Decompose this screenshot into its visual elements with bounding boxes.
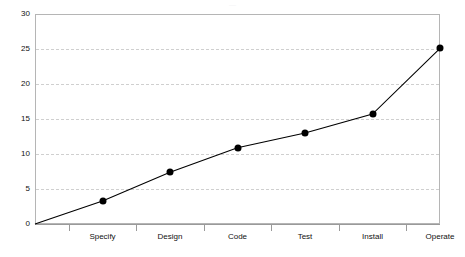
data-point-code — [234, 144, 241, 151]
data-point-operate — [437, 45, 444, 52]
series-polyline — [35, 48, 440, 224]
data-point-specify — [99, 197, 106, 204]
data-point-install — [369, 111, 376, 118]
data-point-design — [167, 169, 174, 176]
line-chart: — 051015202530 SpecifyDesignCodeTestInst… — [0, 0, 465, 257]
data-point-test — [302, 130, 309, 137]
series-line — [0, 0, 465, 257]
